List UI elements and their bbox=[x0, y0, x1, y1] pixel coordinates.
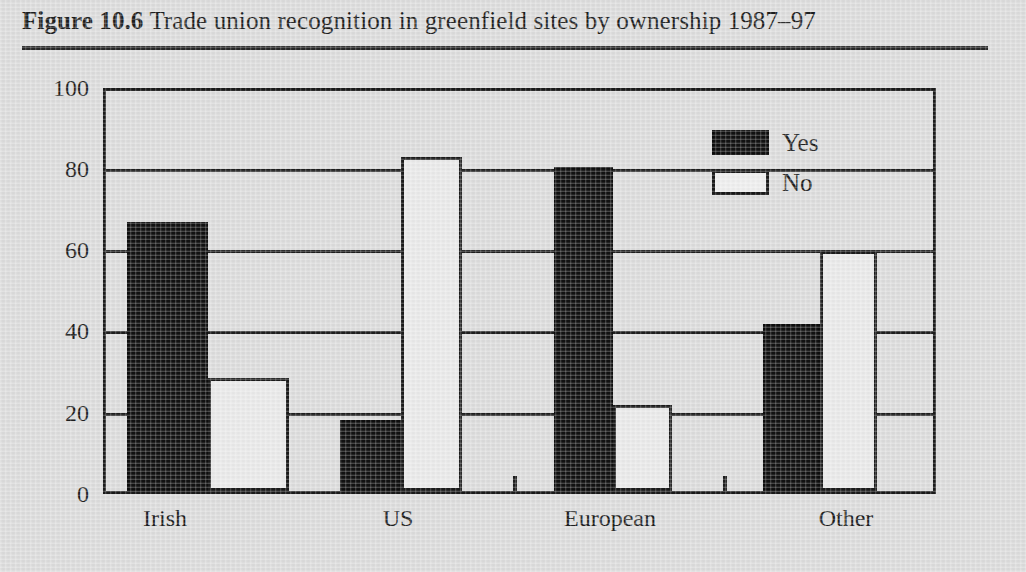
bar-irish-no bbox=[208, 378, 289, 491]
legend-label-no: No bbox=[782, 170, 813, 195]
bar-european-yes bbox=[554, 167, 613, 491]
x-tick-label-us: US bbox=[383, 504, 414, 532]
bar-other-yes bbox=[763, 324, 820, 491]
legend-item-yes: Yes bbox=[712, 122, 932, 162]
bar-other-no bbox=[820, 251, 877, 491]
bar-irish-yes bbox=[127, 222, 208, 491]
y-tick-label-40: 40 bbox=[19, 319, 89, 343]
y-tick-label-20: 20 bbox=[19, 401, 89, 425]
x-tick-label-european: European bbox=[564, 504, 656, 532]
bar-us-yes bbox=[340, 420, 401, 491]
gridline-60 bbox=[106, 250, 933, 253]
figure-number: Figure 10.6 bbox=[22, 7, 143, 34]
bar-european-no bbox=[613, 405, 672, 491]
y-tick-label-100: 100 bbox=[19, 76, 89, 100]
legend-swatch-yes-icon bbox=[712, 130, 769, 155]
x-tick-label-irish: Irish bbox=[143, 504, 187, 532]
legend-swatch-no-icon bbox=[712, 170, 769, 195]
y-tick-label-60: 60 bbox=[19, 238, 89, 262]
legend-label-yes: Yes bbox=[782, 130, 818, 155]
caption-rule bbox=[22, 46, 988, 50]
y-tick-label-0: 0 bbox=[19, 482, 89, 506]
legend: Yes No bbox=[712, 122, 932, 202]
y-axis: 100 80 60 40 20 0 bbox=[13, 88, 89, 494]
bar-us-no bbox=[401, 157, 462, 491]
x-tick-2 bbox=[513, 476, 517, 491]
x-tick-3 bbox=[723, 476, 727, 491]
x-tick-label-other: Other bbox=[819, 504, 874, 532]
legend-item-no: No bbox=[712, 162, 932, 202]
bar-chart: 100 80 60 40 20 0 bbox=[0, 60, 1026, 572]
figure-caption-text: Trade union recognition in greenfield si… bbox=[149, 7, 815, 34]
y-tick-label-80: 80 bbox=[19, 157, 89, 181]
figure-page: Figure 10.6 Trade union recognition in g… bbox=[0, 0, 1026, 572]
figure-caption: Figure 10.6 Trade union recognition in g… bbox=[22, 6, 992, 36]
